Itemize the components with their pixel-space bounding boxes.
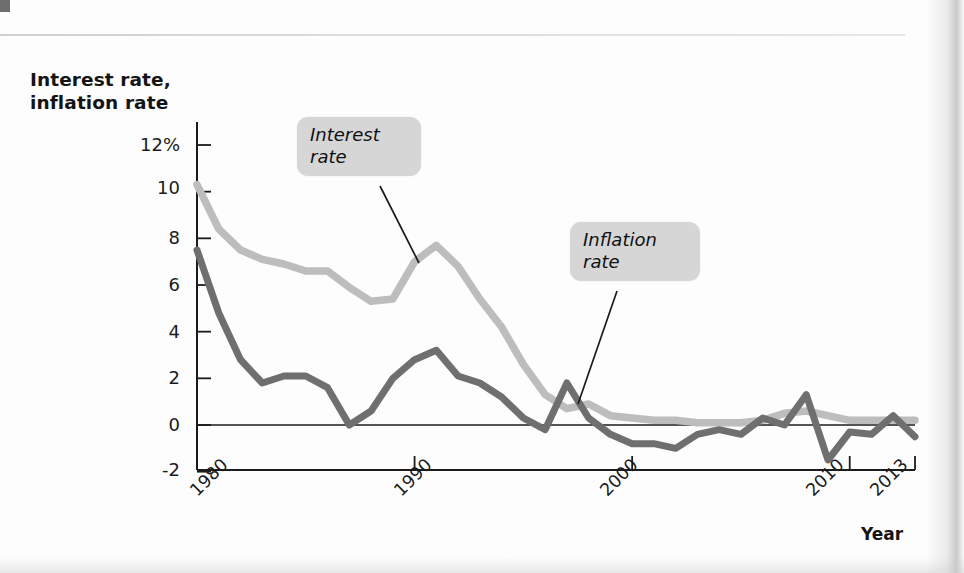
page-bottom-shadow xyxy=(0,557,964,573)
interest-rate-callout[interactable]: Interest rate xyxy=(297,117,421,176)
interest-rate-callout-line2: rate xyxy=(310,146,408,168)
interest-rate-line xyxy=(197,185,915,423)
inflation-rate-leader-line xyxy=(578,291,617,404)
page-right-shadow xyxy=(926,0,964,573)
x-tick-marks xyxy=(197,456,915,470)
figure-page: Interest rate, inflation rate Year 12% 1… xyxy=(0,0,964,573)
interest-rate-leader-line xyxy=(380,186,419,263)
inflation-rate-line xyxy=(197,250,915,460)
chart-plot-area xyxy=(0,0,964,573)
inflation-rate-callout[interactable]: Inflation rate xyxy=(570,222,700,281)
inflation-rate-callout-line2: rate xyxy=(583,251,687,273)
interest-rate-callout-line1: Interest xyxy=(310,124,408,146)
inflation-rate-callout-line1: Inflation xyxy=(583,229,687,251)
